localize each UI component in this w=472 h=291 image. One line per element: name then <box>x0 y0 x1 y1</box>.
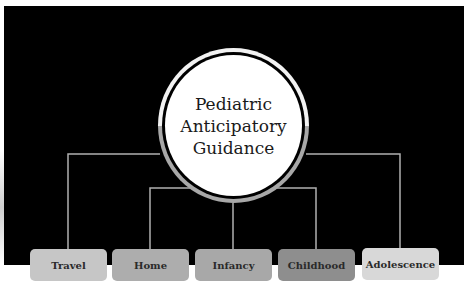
connector-adolescence <box>306 154 400 249</box>
hub-title-line-2: Anticipatory <box>169 115 299 137</box>
branch-box-childhood: Childhood <box>278 249 355 281</box>
branch-label: Childhood <box>288 260 345 271</box>
central-hub: Pediatric Anticipatory Guidance <box>158 48 309 203</box>
branch-label: Travel <box>51 260 85 271</box>
connector-home <box>150 188 190 250</box>
branch-label: Adolescence <box>366 259 435 270</box>
branch-label: Infancy <box>213 260 255 271</box>
branch-box-infancy: Infancy <box>195 249 272 281</box>
connector-childhood <box>276 188 316 250</box>
branch-box-home: Home <box>112 249 189 281</box>
hub-title: Pediatric Anticipatory Guidance <box>169 93 299 159</box>
branch-box-adolescence: Adolescence <box>362 248 439 280</box>
hub-title-line-1: Pediatric <box>169 93 299 115</box>
connector-travel <box>68 154 160 250</box>
hub-core: Pediatric Anticipatory Guidance <box>165 55 302 196</box>
branch-label: Home <box>134 260 167 271</box>
hub-title-line-3: Guidance <box>169 137 299 159</box>
branch-box-travel: Travel <box>30 249 107 281</box>
